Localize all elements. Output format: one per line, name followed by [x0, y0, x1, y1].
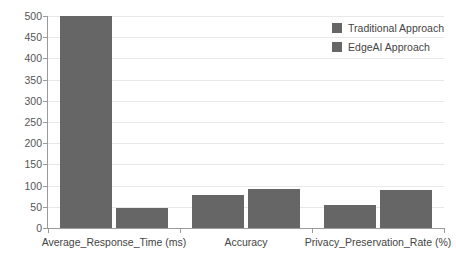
- bar[interactable]: [192, 195, 244, 228]
- legend-label: EdgeAI Approach: [348, 41, 430, 53]
- y-tick-label: 100: [8, 180, 42, 192]
- x-tick-mark: [180, 228, 181, 233]
- bar[interactable]: [248, 189, 300, 228]
- bar[interactable]: [380, 190, 432, 228]
- bar-group: [180, 16, 312, 228]
- y-tick-label: 300: [8, 95, 42, 107]
- bar[interactable]: [324, 205, 376, 228]
- y-tick-label: 0: [8, 222, 42, 234]
- legend-label: Traditional Approach: [348, 22, 444, 34]
- y-tick-label: 250: [8, 116, 42, 128]
- legend-item[interactable]: EdgeAI Approach: [332, 41, 444, 53]
- legend: Traditional Approach EdgeAI Approach: [332, 22, 444, 53]
- bar[interactable]: [116, 208, 168, 228]
- x-tick-mark: [444, 228, 445, 233]
- y-tick-label: 500: [8, 10, 42, 22]
- x-tick-mark: [48, 228, 49, 233]
- y-tick-label: 450: [8, 31, 42, 43]
- bar-chart: 050100150200250300350400450500 Average_R…: [0, 0, 456, 262]
- bar-group: [48, 16, 180, 228]
- axis-baseline: [48, 228, 444, 229]
- legend-swatch-traditional: [332, 23, 342, 33]
- legend-item[interactable]: Traditional Approach: [332, 22, 444, 34]
- y-tick-label: 50: [8, 201, 42, 213]
- y-tick-label: 400: [8, 52, 42, 64]
- legend-swatch-edgeai: [332, 42, 342, 52]
- x-tick-label: Privacy_Preservation_Rate (%): [305, 236, 451, 248]
- y-tick-label: 200: [8, 137, 42, 149]
- x-tick-label: Accuracy: [224, 236, 267, 248]
- y-tick-label: 150: [8, 158, 42, 170]
- x-tick-mark: [312, 228, 313, 233]
- bar[interactable]: [60, 16, 112, 228]
- x-tick-label: Average_Response_Time (ms): [42, 236, 187, 248]
- y-tick-label: 350: [8, 74, 42, 86]
